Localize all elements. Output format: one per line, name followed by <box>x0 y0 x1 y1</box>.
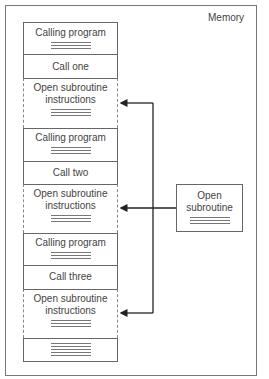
arrows <box>0 0 269 379</box>
